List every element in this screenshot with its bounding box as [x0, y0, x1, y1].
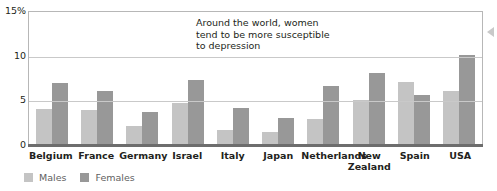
- x-label-line: Belgium: [28, 150, 73, 161]
- bar-germany-males: [126, 126, 142, 145]
- y-axis: 051015%: [0, 0, 26, 150]
- x-label-line: Zealand: [347, 161, 392, 172]
- bar-italy-females: [233, 108, 249, 145]
- legend-item-males[interactable]: Males: [24, 172, 66, 183]
- bar-israel-males: [172, 103, 188, 145]
- x-label-israel: Israel: [165, 150, 210, 180]
- bar-group: [443, 12, 475, 145]
- x-label-italy: Italy: [210, 150, 255, 180]
- x-label-japan: Japan: [256, 150, 301, 180]
- gridline: [29, 101, 482, 102]
- x-label-line: Germany: [119, 150, 164, 161]
- bar-japan-males: [262, 132, 278, 145]
- bar-france-females: [97, 91, 113, 145]
- bar-netherlands-females: [323, 86, 339, 145]
- triangle-left-icon: [487, 27, 494, 37]
- bar-belgium-females: [52, 83, 68, 145]
- bar-new-zealand-females: [369, 73, 385, 145]
- chart-annotation: Around the world, womentend to be more s…: [196, 17, 356, 52]
- gridline: [29, 57, 482, 58]
- y-tick-label: 0: [20, 140, 26, 150]
- annotation-line: to depression: [196, 40, 356, 52]
- bar-spain-males: [398, 82, 414, 145]
- x-label-line: Japan: [256, 150, 301, 161]
- bar-group: [126, 12, 158, 145]
- bar-japan-females: [278, 118, 294, 145]
- y-tick-label: 10: [14, 51, 26, 61]
- legend-item-females[interactable]: Females: [80, 172, 134, 183]
- bar-italy-males: [217, 130, 233, 145]
- bar-usa-females: [459, 55, 475, 145]
- legend-swatch-icon: [24, 173, 33, 182]
- legend-label: Males: [39, 172, 66, 183]
- bar-france-males: [81, 110, 97, 145]
- bar-group: [36, 12, 68, 145]
- x-label-line: New: [347, 150, 392, 161]
- legend-swatch-icon: [80, 173, 89, 182]
- chart-legend: MalesFemales: [24, 172, 135, 183]
- x-label-netherlands: Netherlands: [301, 150, 346, 180]
- y-tick-label: 5: [20, 95, 26, 105]
- x-label-line: Netherlands: [301, 150, 346, 161]
- depression-by-gender-bar-chart: 051015% Around the world, womentend to b…: [0, 0, 497, 191]
- x-label-line: USA: [438, 150, 483, 161]
- annotation-line: tend to be more susceptible: [196, 29, 356, 41]
- bar-netherlands-males: [307, 119, 323, 145]
- x-label-line: Italy: [210, 150, 255, 161]
- x-axis-baseline: [28, 144, 483, 147]
- x-label-new-zealand: NewZealand: [347, 150, 392, 180]
- bar-group: [353, 12, 385, 145]
- x-label-spain: Spain: [392, 150, 437, 180]
- x-label-line: Spain: [392, 150, 437, 161]
- bar-group: [81, 12, 113, 145]
- bar-israel-females: [188, 80, 204, 145]
- y-tick-label: 15%: [5, 6, 26, 16]
- bar-spain-females: [414, 95, 430, 145]
- bar-belgium-males: [36, 109, 52, 145]
- x-label-line: Israel: [165, 150, 210, 161]
- x-label-line: France: [74, 150, 119, 161]
- legend-label: Females: [95, 172, 134, 183]
- bar-usa-males: [443, 91, 459, 145]
- bar-group: [398, 12, 430, 145]
- bar-new-zealand-males: [353, 100, 369, 145]
- bar-germany-females: [142, 112, 158, 145]
- x-label-usa: USA: [438, 150, 483, 180]
- annotation-line: Around the world, women: [196, 17, 356, 29]
